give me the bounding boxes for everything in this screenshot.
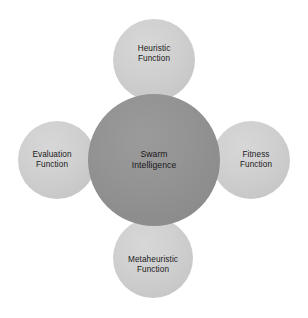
node-heuristic-function-label: Heuristic Function	[138, 44, 171, 65]
node-evaluation-function[interactable]: Evaluation Function	[18, 121, 96, 199]
node-metaheuristic-function[interactable]: Metaheuristic Function	[113, 218, 193, 298]
diagram-canvas: Heuristic Function Evaluation Function F…	[0, 0, 308, 318]
node-heuristic-function[interactable]: Heuristic Function	[113, 19, 195, 101]
node-metaheuristic-function-label: Metaheuristic Function	[128, 255, 178, 276]
node-evaluation-function-label: Evaluation Function	[32, 150, 71, 171]
node-swarm-intelligence[interactable]: Swarm Intelligence	[88, 94, 220, 226]
node-swarm-intelligence-label: Swarm Intelligence	[132, 149, 177, 171]
node-fitness-function-label: Fitness Function	[240, 150, 272, 171]
node-fitness-function[interactable]: Fitness Function	[212, 121, 290, 199]
